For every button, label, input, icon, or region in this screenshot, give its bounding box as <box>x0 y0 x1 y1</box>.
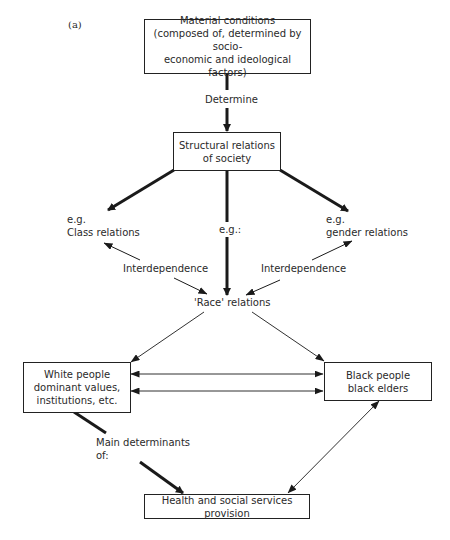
interdependence-right-label: Interdependence <box>261 262 346 275</box>
class-text: Class relations <box>67 226 140 239</box>
connector-layer <box>0 0 450 540</box>
material-line-1: Material conditions <box>180 14 275 27</box>
figure-label: (a) <box>68 19 82 30</box>
main-line-2: of: <box>96 449 190 462</box>
white-people-box: White people dominant values, institutio… <box>23 362 131 413</box>
arrow-interdep-right-to-race <box>246 280 280 295</box>
arrow-health-black <box>288 401 379 493</box>
material-line-3: economic and ideological factors) <box>145 53 310 79</box>
main-determinants-label: Main determinants of: <box>96 436 190 462</box>
diagram-canvas: (a) Material conditions (composed of, de… <box>0 0 450 540</box>
race-relations-label: 'Race' relations <box>194 296 271 309</box>
structural-relations-box: Structural relations of society <box>173 132 281 171</box>
interdependence-left-label: Interdependence <box>123 262 208 275</box>
material-line-2: (composed of, determined by socio- <box>145 27 310 53</box>
material-conditions-box: Material conditions (composed of, determ… <box>144 19 311 74</box>
white-line-1: White people <box>44 368 110 381</box>
main-line-1: Main determinants <box>96 436 190 449</box>
class-eg: e.g. <box>67 213 140 226</box>
arrow-interdep-left-to-class <box>104 243 140 260</box>
white-line-2: dominant values, <box>34 381 121 394</box>
arrow-race-to-white <box>131 312 204 362</box>
arrow-structural-to-gender <box>280 170 348 211</box>
structural-line-2: of society <box>203 152 251 165</box>
black-people-box: Black people black elders <box>324 362 432 401</box>
black-line-2: black elders <box>348 382 408 395</box>
structural-line-1: Structural relations <box>179 139 275 152</box>
determine-label: Determine <box>205 93 258 106</box>
gender-eg: e.g. <box>326 213 408 226</box>
black-line-1: Black people <box>346 369 410 382</box>
class-relations-label: e.g. Class relations <box>67 213 140 239</box>
arrow-main-to-health <box>140 462 183 493</box>
arrow-white-to-main <box>74 412 106 433</box>
arrow-structural-to-class <box>108 170 174 210</box>
gender-text: gender relations <box>326 226 408 239</box>
health-services-box: Health and social services provision <box>144 494 310 519</box>
eg-center-label: e.g.: <box>218 223 242 236</box>
health-line-1: Health and social services provision <box>145 494 309 520</box>
arrow-interdep-left-to-race <box>174 278 207 294</box>
white-line-3: institutions, etc. <box>37 394 118 407</box>
arrow-interdep-right-to-gender <box>312 241 352 260</box>
gender-relations-label: e.g. gender relations <box>326 213 408 239</box>
arrow-race-to-black <box>252 312 324 361</box>
